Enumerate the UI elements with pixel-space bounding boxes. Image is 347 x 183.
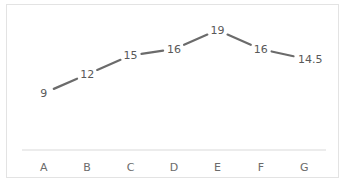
line-segment [54, 79, 77, 89]
data-label: 15 [124, 49, 138, 62]
data-labels: 9121516191614.5 [40, 24, 322, 100]
line-segment [184, 35, 207, 45]
x-tick-label: B [83, 161, 91, 174]
x-tick-label: A [40, 161, 48, 174]
line-segment [228, 35, 251, 45]
x-tick-labels: ABCDEFG [40, 161, 309, 174]
x-tick-label: C [127, 161, 135, 174]
line-segment [141, 51, 163, 54]
data-label: 12 [80, 68, 94, 81]
x-tick-label: D [170, 161, 178, 174]
x-tick-label: E [214, 161, 221, 174]
line-chart: 9121516191614.5 ABCDEFG [0, 0, 347, 183]
data-label: 14.5 [298, 53, 323, 66]
data-label: 16 [167, 43, 181, 56]
data-label: 19 [210, 24, 224, 37]
line-segment [272, 51, 294, 56]
x-tick-label: G [300, 161, 309, 174]
data-label: 9 [40, 87, 47, 100]
line-segment [97, 60, 120, 70]
x-tick-label: F [258, 161, 264, 174]
data-label: 16 [254, 43, 268, 56]
